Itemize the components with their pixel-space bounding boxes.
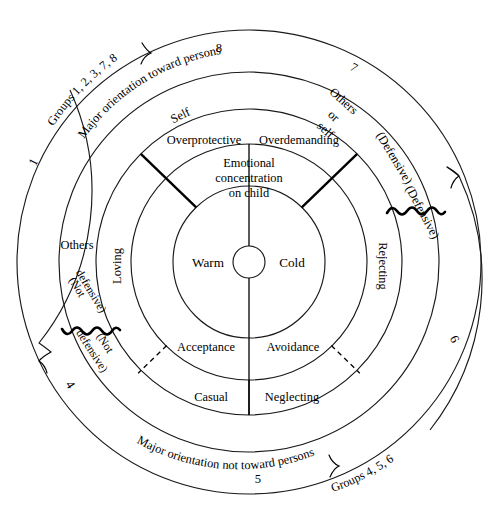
label-group-8: 8 [216, 41, 222, 55]
label-group-5: 5 [255, 472, 261, 486]
label-acceptance: Acceptance [177, 340, 235, 354]
label-neglecting: Neglecting [265, 390, 319, 404]
label-overprotective: Overprotective [167, 133, 242, 147]
label-loving: Loving [110, 248, 124, 284]
label-cold: Cold [279, 255, 305, 270]
label-emotional-line3: on child [229, 186, 270, 200]
label-avoidance: Avoidance [267, 340, 320, 354]
diagram-canvas: Warm Cold Emotional concentration on chi… [0, 0, 496, 517]
label-others: Others [60, 238, 93, 252]
label-emotional-line2: concentration [215, 171, 282, 185]
label-casual: Casual [194, 390, 228, 404]
label-rejecting: Rejecting [376, 242, 390, 289]
canvas-background [0, 0, 496, 517]
label-emotional-line1: Emotional [223, 156, 275, 170]
label-warm: Warm [192, 255, 225, 270]
circumplex-diagram: Warm Cold Emotional concentration on chi… [0, 0, 496, 517]
